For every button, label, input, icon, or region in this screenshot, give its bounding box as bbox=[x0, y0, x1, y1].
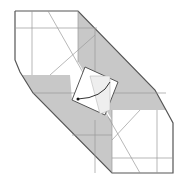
square-bottom-right bbox=[112, 110, 173, 173]
origami-diagram bbox=[0, 0, 181, 187]
fold-arrow-tip bbox=[77, 98, 80, 101]
square-top-left bbox=[15, 11, 78, 75]
